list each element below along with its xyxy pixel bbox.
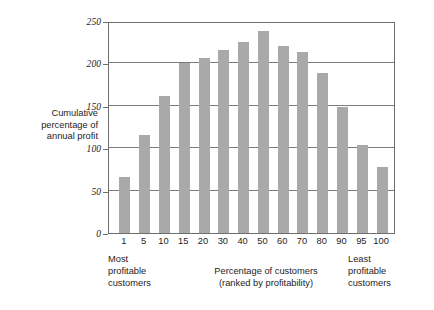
y-tick-label-250: 250 — [67, 17, 101, 27]
bar-30 — [218, 50, 229, 233]
bar-50 — [258, 31, 269, 233]
x-axis-title-line-1: Percentage of customers — [186, 266, 346, 278]
annotation-right-line-2: profitable — [348, 266, 391, 278]
bar-80 — [317, 73, 328, 233]
plot-area — [108, 22, 395, 234]
y-axis-title: Cumulative percentage of annual profit — [4, 108, 98, 143]
annotation-left-line-2: profitable — [108, 266, 151, 278]
annotation-left-line-1: Most — [108, 254, 151, 266]
y-tick-label-150: 150 — [67, 102, 101, 112]
bar-40 — [238, 42, 249, 233]
bar-5 — [139, 135, 150, 233]
annotation-right-line-1: Least — [348, 254, 391, 266]
y-tick-label-200: 200 — [67, 59, 101, 69]
annotation-right-line-3: customers — [348, 278, 391, 290]
y-tick-label-0: 0 — [67, 229, 101, 239]
bar-95 — [357, 145, 368, 233]
bar-15 — [179, 63, 190, 233]
bar-90 — [337, 107, 348, 233]
x-axis-title: Percentage of customers (ranked by profi… — [186, 266, 346, 290]
y-tick-label-100: 100 — [67, 144, 101, 154]
y-axis-title-line-3: annual profit — [4, 131, 98, 143]
bar-60 — [278, 46, 289, 233]
bar-1 — [119, 177, 130, 233]
bar-70 — [297, 52, 308, 233]
x-tick-label-100: 100 — [368, 236, 394, 247]
annotation-most-profitable: Most profitable customers — [108, 254, 151, 289]
bar-chart-figure: Cumulative percentage of annual profit 0… — [0, 0, 434, 310]
y-axis-title-line-2: percentage of — [4, 120, 98, 132]
annotation-least-profitable: Least profitable customers — [348, 254, 391, 289]
bar-20 — [199, 58, 210, 233]
annotation-left-line-3: customers — [108, 278, 151, 290]
bar-10 — [159, 96, 170, 233]
x-axis-title-line-2: (ranked by profitability) — [186, 278, 346, 290]
y-tick-label-50: 50 — [67, 187, 101, 197]
bar-100 — [377, 167, 388, 233]
y-tick-mark-0 — [103, 234, 108, 235]
bar-series — [109, 23, 394, 233]
